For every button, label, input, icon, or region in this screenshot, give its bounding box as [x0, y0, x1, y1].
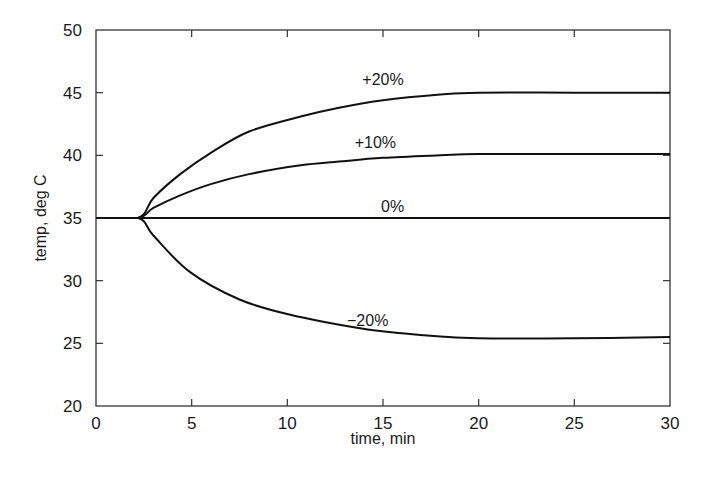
x-tick-label: 5	[187, 414, 196, 433]
x-tick-label: 10	[278, 414, 297, 433]
series-label: +20%	[362, 71, 403, 88]
y-axis-title: temp, deg C	[32, 174, 49, 261]
y-tick-label: 45	[63, 84, 82, 103]
x-tick-label: 0	[91, 414, 100, 433]
series-label: 0%	[381, 198, 404, 215]
y-tick-label: 40	[63, 146, 82, 165]
series-labels: +20%+10%0%−20%	[347, 71, 404, 329]
x-tick-label: 20	[469, 414, 488, 433]
x-axis: 051015202530	[91, 30, 679, 433]
y-tick-label: 50	[63, 21, 82, 40]
x-tick-label: 25	[565, 414, 584, 433]
y-tick-label: 20	[63, 397, 82, 416]
line-chart: 051015202530 20253035404550 +20%+10%0%−2…	[0, 0, 705, 486]
y-tick-label: 25	[63, 334, 82, 353]
series-label: −20%	[347, 312, 388, 329]
series-lines	[96, 93, 670, 339]
x-tick-label: 30	[661, 414, 680, 433]
x-axis-title: time, min	[351, 430, 416, 447]
series-label: +10%	[355, 134, 396, 151]
y-tick-label: 35	[63, 209, 82, 228]
y-tick-label: 30	[63, 272, 82, 291]
